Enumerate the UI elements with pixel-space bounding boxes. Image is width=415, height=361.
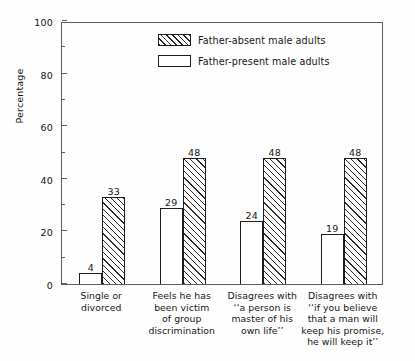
bar-value-label: 29: [165, 197, 178, 208]
y-axis-tick-label: 0: [13, 280, 53, 291]
bar-value-label: 48: [269, 147, 282, 158]
x-axis-label-line: ‘‘if you believe: [291, 302, 395, 314]
bar-value-label: 48: [349, 147, 362, 158]
y-axis-tick-label: 100: [13, 17, 53, 28]
y-axis-tick-label: 40: [13, 175, 53, 186]
bar-chart: Percentage 020406080100433294824481948 F…: [0, 0, 415, 361]
y-axis-major-tick: [62, 178, 67, 179]
x-axis-label-line: that a man will: [291, 313, 395, 325]
bar-father-present: 24: [240, 221, 263, 284]
bar-value-label: 48: [188, 147, 201, 158]
y-axis-major-tick: [62, 73, 67, 74]
bar-value-label: 4: [88, 262, 94, 273]
bar-father-absent: 33: [102, 197, 125, 284]
legend-swatch-white-icon: [158, 55, 191, 67]
bar-father-present: 29: [160, 208, 183, 284]
y-axis-major-tick: [62, 20, 67, 21]
y-axis-minor-tick: [62, 99, 65, 100]
y-axis-major-tick: [62, 125, 67, 126]
x-axis-label-line: he will keep it’’: [291, 336, 395, 348]
legend-label: Father-present male adults: [198, 56, 330, 67]
legend-swatch-hatched-icon: [158, 34, 191, 46]
bar-value-label: 24: [246, 210, 259, 221]
legend-label: Father-absent male adults: [198, 35, 326, 46]
legend-item: Father-absent male adults: [158, 31, 330, 49]
bar-father-present: 19: [321, 234, 344, 284]
y-axis-tick-label: 60: [13, 122, 53, 133]
bar-father-absent: 48: [183, 158, 206, 284]
y-axis-minor-tick: [62, 152, 65, 153]
y-axis-minor-tick: [62, 257, 65, 258]
y-axis-major-tick: [62, 283, 67, 284]
bar-father-absent: 48: [344, 158, 367, 284]
y-axis-minor-tick: [62, 46, 65, 47]
y-axis-major-tick: [62, 230, 67, 231]
y-axis-tick-label: 80: [13, 70, 53, 81]
x-axis-group-label: Disagrees with‘‘if you believethat a man…: [291, 290, 395, 348]
y-axis-tick-label: 20: [13, 227, 53, 238]
legend-item: Father-present male adults: [158, 52, 330, 70]
x-axis-label-line: keep his promise,: [291, 325, 395, 337]
bar-father-present: 4: [79, 273, 102, 284]
x-axis-label-line: Disagrees with: [291, 290, 395, 302]
bar-value-label: 33: [108, 186, 121, 197]
bar-value-label: 19: [326, 223, 339, 234]
chart-legend: Father-absent male adultsFather-present …: [158, 31, 330, 73]
y-axis-minor-tick: [62, 204, 65, 205]
bar-father-absent: 48: [263, 158, 286, 284]
